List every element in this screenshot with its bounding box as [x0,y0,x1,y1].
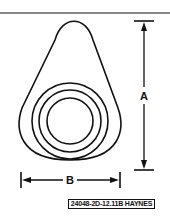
dim-a-label: A [140,90,148,102]
dim-b-arrow-left-icon [22,177,31,183]
figure-caption: 24048-2D-12.11B HAYNES [68,199,155,209]
dim-b-label: B [66,174,74,186]
part-diagram: A B [0,0,170,219]
inner-ring-2 [47,98,93,144]
dim-b-arrow-right-icon [110,177,119,183]
dim-a-arrow-up-icon [141,22,147,31]
outer-ring [32,83,108,159]
middle-ring [35,86,105,156]
inner-ring-1 [39,90,101,152]
dim-a-arrow-down-icon [141,160,147,169]
